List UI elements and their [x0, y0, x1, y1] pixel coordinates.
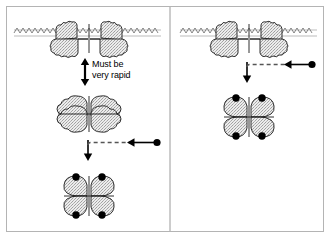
- ligand-dot-bound: [72, 211, 79, 218]
- right-panel: [180, 21, 317, 140]
- membrane-line-right: [180, 28, 317, 36]
- ligand-binding-arrow-left: [84, 138, 161, 161]
- ligand-dot-bound: [98, 173, 105, 180]
- left-panel: [14, 21, 161, 219]
- membrane-line-left: [14, 28, 161, 36]
- membrane-receptor-dimer-left: [50, 21, 128, 57]
- ligand-dot-bound: [258, 132, 265, 139]
- ligand-dot-bound: [98, 211, 105, 218]
- ligand-binding-arrow-right: [243, 60, 316, 83]
- ligand-dot-right: [308, 61, 315, 68]
- ligand-dot-bound: [232, 94, 239, 101]
- figure-root: Must be very rapid: [0, 0, 335, 242]
- bound-complex-left: [64, 173, 114, 218]
- annotation-line-2: very rapid: [92, 70, 131, 81]
- ligand-dot-left: [153, 139, 160, 146]
- annotation-must-be-rapid: Must be very rapid: [92, 59, 131, 80]
- four-lobe-dimer-left: [57, 96, 121, 132]
- bound-complex-right: [224, 94, 274, 139]
- ligand-dot-bound: [258, 94, 265, 101]
- membrane-receptor-dimer-right: [210, 21, 288, 57]
- ligand-dot-bound: [232, 132, 239, 139]
- ligand-dot-bound: [72, 173, 79, 180]
- annotation-line-1: Must be: [92, 59, 131, 70]
- equilibrium-double-arrow-left: [81, 58, 89, 86]
- figure-canvas: [0, 0, 335, 242]
